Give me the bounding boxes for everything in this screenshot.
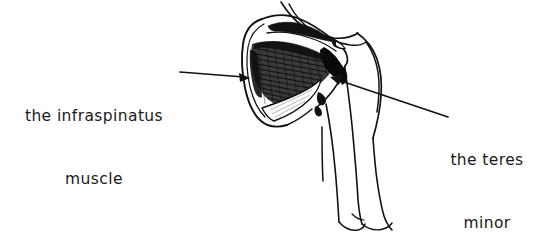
leader-teres-minor: [330, 75, 448, 117]
label-teres-minor-line1: the teres: [440, 150, 534, 171]
label-infraspinatus-line1: the infraspinatus: [6, 106, 182, 127]
label-teres-minor-line2: minor: [440, 213, 534, 234]
shoulder-deltoid-contour: [357, 33, 381, 138]
label-infraspinatus: the infraspinatus muscle: [6, 64, 182, 232]
label-infraspinatus-line2: muscle: [6, 169, 182, 190]
leader-infraspinatus: [180, 72, 250, 82]
illustration-canvas: the infraspinatus muscle the teres minor: [0, 0, 536, 234]
label-teres-minor: the teres minor: [440, 108, 534, 234]
